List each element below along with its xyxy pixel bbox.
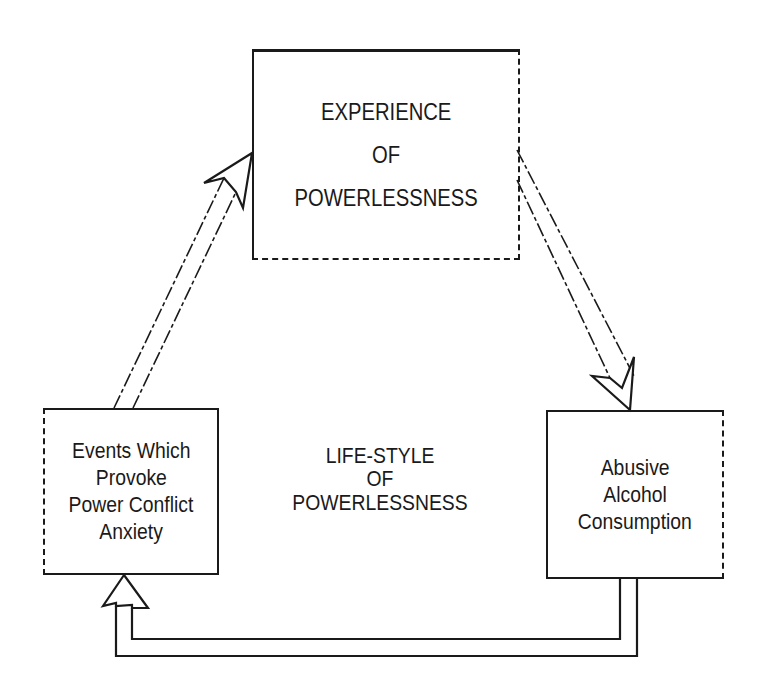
feedback-pipe-inner	[132, 579, 620, 639]
arrow-shaft-inner	[517, 180, 610, 378]
arrow-shaft-outer	[517, 150, 634, 376]
powerlessness-cycle-diagram: EXPERIENCE OF POWERLESSNESS Events Which…	[0, 0, 764, 698]
node-text-line: Power Conflict	[69, 494, 194, 516]
feedback-pipe-outer	[116, 579, 637, 656]
node-text-line: Consumption	[578, 511, 692, 533]
node-text-line: Alcohol	[603, 484, 666, 506]
arrow-events-to-experience	[114, 153, 252, 408]
arrow-head-up-right	[204, 153, 252, 208]
arrow-shaft-inner	[133, 192, 236, 408]
center-text-line: LIFE-STYLE	[283, 445, 477, 467]
center-text-line: POWERLESSNESS	[283, 492, 477, 514]
node-experience-of-powerlessness: EXPERIENCE OF POWERLESSNESS	[252, 49, 520, 260]
node-text-line: Events Which	[72, 440, 190, 462]
arrow-experience-to-consumption	[517, 150, 634, 410]
node-text-line: EXPERIENCE	[321, 101, 451, 124]
center-label-lifestyle: LIFE-STYLE OF POWERLESSNESS	[270, 443, 490, 515]
node-text-line: POWERLESSNESS	[294, 187, 477, 210]
node-text-line: Anxiety	[99, 521, 162, 543]
node-text-line: Provoke	[95, 467, 166, 489]
center-text-line: OF	[283, 468, 477, 490]
node-text-line: Abusive	[601, 457, 670, 479]
node-text-line: OF	[372, 144, 400, 167]
node-abusive-alcohol-consumption: Abusive Alcohol Consumption	[546, 410, 724, 579]
node-events-provoke-anxiety: Events Which Provoke Power Conflict Anxi…	[43, 408, 219, 575]
arrow-shaft-outer	[114, 178, 224, 408]
arrow-consumption-to-events	[103, 575, 637, 656]
arrow-head-up	[103, 575, 148, 608]
